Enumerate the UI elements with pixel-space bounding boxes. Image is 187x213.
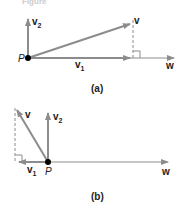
vector-v-b bbox=[17, 110, 48, 162]
right-angle-marker-b bbox=[15, 155, 22, 162]
label-v1-b: v1 bbox=[27, 164, 37, 177]
label-p-a: P bbox=[18, 53, 25, 64]
diagram-b: v v2 v1 P w (b) bbox=[15, 108, 170, 202]
label-w-b: w bbox=[161, 166, 170, 177]
label-v1-a: v1 bbox=[75, 59, 85, 72]
label-v2-b: v2 bbox=[53, 111, 63, 124]
point-p-b bbox=[45, 159, 51, 165]
point-p-a bbox=[25, 55, 31, 61]
diagram-a: P v2 v v1 w (a) bbox=[18, 15, 174, 94]
label-v-a: v bbox=[134, 15, 140, 26]
vector-v-a bbox=[28, 24, 130, 58]
label-v-b: v bbox=[25, 109, 31, 120]
caption-b: (b) bbox=[91, 191, 104, 202]
vector-projection-figure: Figure P v2 v v1 w (a) v v2 v1 P w (b) bbox=[0, 0, 187, 213]
label-v2-a: v2 bbox=[32, 16, 42, 29]
right-angle-marker-a bbox=[133, 51, 140, 58]
header-partial-text: Figure bbox=[22, 0, 47, 6]
caption-a: (a) bbox=[91, 83, 103, 94]
label-w-a: w bbox=[165, 60, 174, 71]
label-p-b: P bbox=[45, 166, 52, 177]
